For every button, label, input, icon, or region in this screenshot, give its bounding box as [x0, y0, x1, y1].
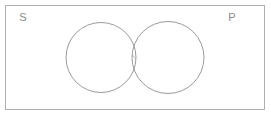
- predicate-set-label: P: [228, 11, 235, 23]
- venn-diagram-canvas: S P: [0, 0, 271, 116]
- venn-diagram-svg: S P: [0, 0, 271, 116]
- subject-set-label: S: [19, 11, 26, 23]
